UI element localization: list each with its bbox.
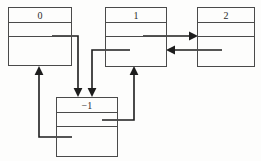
node-0-label: 0 (9, 8, 71, 23)
node-0-row-2 (9, 23, 71, 37)
node-2-row-3 (198, 37, 254, 66)
node-minus-1-row-1: −1 (57, 98, 117, 113)
node-box-minus-1[interactable]: −1 (56, 97, 118, 157)
node-1-row-1: 1 (106, 8, 166, 23)
diagram-canvas: 0 1 2 −1 (0, 0, 261, 161)
node-box-2[interactable]: 2 (197, 7, 255, 67)
node-box-0[interactable]: 0 (8, 7, 72, 66)
node-2-label: 2 (198, 8, 254, 23)
node-box-1[interactable]: 1 (105, 7, 167, 67)
node-1-label: 1 (106, 8, 166, 23)
node-2-row-1: 2 (198, 8, 254, 23)
node-2-row-2 (198, 23, 254, 37)
node-0-row-3 (9, 37, 71, 65)
node-0-row-1: 0 (9, 8, 71, 23)
node-minus-1-label: −1 (57, 98, 117, 113)
node-minus-1-row-3 (57, 127, 117, 156)
node-1-row-2 (106, 23, 166, 37)
node-minus-1-row-2 (57, 113, 117, 127)
node-1-row-3 (106, 37, 166, 66)
